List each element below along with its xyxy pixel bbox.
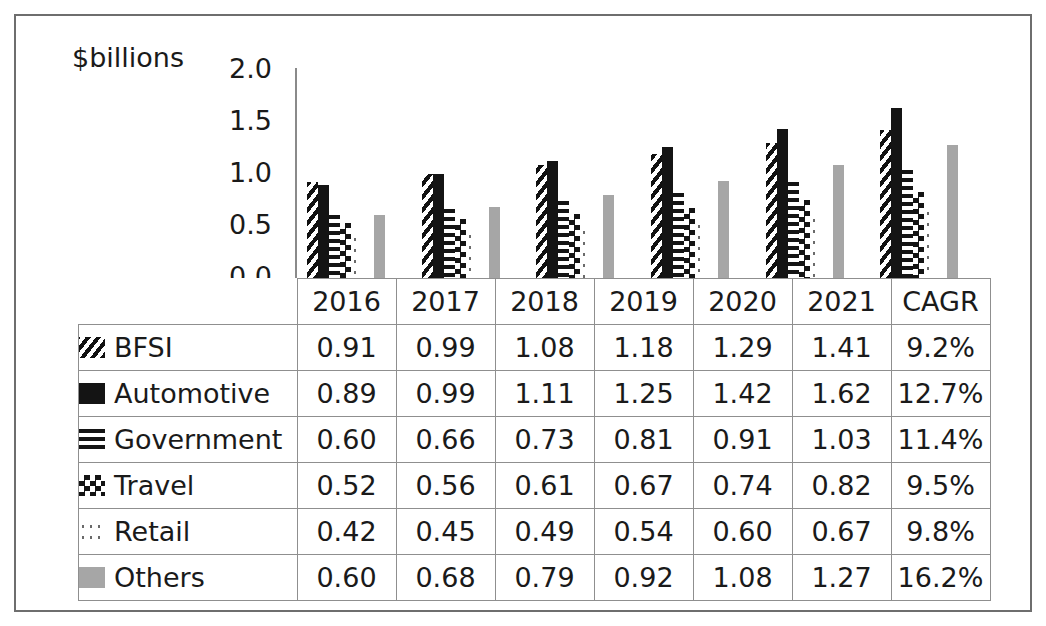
- cell-value: 1.41: [792, 325, 891, 371]
- bar-others-2018: [603, 195, 614, 278]
- y-axis-tick-label: 0.5: [204, 211, 272, 238]
- table-row: Travel0.520.560.610.670.740.829.5%: [79, 463, 991, 509]
- data-table: 2016 2017 2018 2019 2020 2021 CAGR BFSI0…: [78, 278, 991, 601]
- legend-cell-inner: Others: [79, 564, 297, 591]
- legend-cell-inner: Retail: [79, 518, 297, 545]
- y-axis-unit-label: $billions: [72, 44, 184, 71]
- cell-value: 0.79: [495, 555, 594, 601]
- bar-automotive-2021: [891, 108, 902, 278]
- bar-retail-2021: [924, 208, 935, 278]
- bar-others-2017: [489, 207, 500, 278]
- column-header-2021: 2021: [792, 279, 891, 325]
- cell-value: 0.74: [693, 463, 792, 509]
- cell-value: 1.03: [792, 417, 891, 463]
- series-label: Retail: [114, 518, 190, 545]
- cell-value: 1.29: [693, 325, 792, 371]
- bar-government-2019: [673, 193, 684, 278]
- bar-retail-2017: [466, 231, 477, 278]
- cell-cagr: 9.8%: [891, 509, 990, 555]
- column-header-2017: 2017: [396, 279, 495, 325]
- checkerboard-swatch-icon: [79, 475, 105, 496]
- cell-value: 0.89: [297, 371, 396, 417]
- bar-bfsi-2016: [307, 182, 318, 278]
- series-label: Travel: [114, 472, 194, 499]
- cell-value: 0.60: [693, 509, 792, 555]
- solid-black-swatch-icon: [79, 383, 105, 404]
- cell-cagr: 16.2%: [891, 555, 990, 601]
- cell-value: 1.18: [594, 325, 693, 371]
- series-label: Others: [114, 564, 205, 591]
- bar-travel-2018: [569, 214, 580, 278]
- bar-automotive-2020: [777, 129, 788, 278]
- cell-value: 0.99: [396, 325, 495, 371]
- bar-others-2021: [947, 145, 958, 278]
- sparse-dots-swatch-icon: [79, 521, 105, 542]
- cell-value: 0.49: [495, 509, 594, 555]
- cell-cagr: 9.2%: [891, 325, 990, 371]
- cell-value: 0.82: [792, 463, 891, 509]
- cell-value: 0.61: [495, 463, 594, 509]
- cell-value: 0.54: [594, 509, 693, 555]
- bar-travel-2021: [913, 192, 924, 278]
- cell-value: 0.60: [297, 417, 396, 463]
- cell-value: 1.27: [792, 555, 891, 601]
- cell-value: 0.45: [396, 509, 495, 555]
- cell-value: 1.42: [693, 371, 792, 417]
- cell-value: 0.92: [594, 555, 693, 601]
- column-header-2018: 2018: [495, 279, 594, 325]
- bar-others-2019: [718, 181, 729, 278]
- series-label: BFSI: [114, 334, 173, 361]
- bar-retail-2020: [810, 215, 821, 278]
- legend-cell-inner: Government: [79, 426, 297, 453]
- bar-others-2016: [374, 215, 385, 278]
- bar-group: [870, 68, 985, 278]
- table-row: Others0.600.680.790.921.081.2716.2%: [79, 555, 991, 601]
- cell-value: 1.08: [495, 325, 594, 371]
- cell-value: 0.42: [297, 509, 396, 555]
- table-body: BFSI0.910.991.081.181.291.419.2%Automoti…: [79, 325, 991, 601]
- table-header-row: 2016 2017 2018 2019 2020 2021 CAGR: [79, 279, 991, 325]
- bar-retail-2019: [695, 221, 706, 278]
- diagonal-stripe-swatch-icon: [79, 337, 105, 358]
- y-axis-tick-label: 2.0: [204, 55, 272, 82]
- legend-cell-government: Government: [79, 417, 298, 463]
- legend-cell-automotive: Automotive: [79, 371, 298, 417]
- horizontal-lines-swatch-icon: [79, 429, 105, 450]
- cell-value: 0.66: [396, 417, 495, 463]
- table-row: Government0.600.660.730.810.911.0311.4%: [79, 417, 991, 463]
- bar-group: [756, 68, 871, 278]
- cell-cagr: 11.4%: [891, 417, 990, 463]
- chart-page: $billions 2.0 1.5 1.0 0.5 0.0 2016 2017 …: [0, 0, 1046, 626]
- bar-automotive-2016: [318, 185, 329, 278]
- legend-cell-travel: Travel: [79, 463, 298, 509]
- bar-group: [526, 68, 641, 278]
- bar-bfsi-2019: [651, 154, 662, 278]
- cell-value: 0.81: [594, 417, 693, 463]
- bar-automotive-2018: [547, 161, 558, 278]
- table-row: BFSI0.910.991.081.181.291.419.2%: [79, 325, 991, 371]
- column-header-2020: 2020: [693, 279, 792, 325]
- cell-value: 0.52: [297, 463, 396, 509]
- bar-retail-2016: [351, 234, 362, 278]
- legend-cell-retail: Retail: [79, 509, 298, 555]
- bar-government-2020: [788, 182, 799, 278]
- plot-area: [297, 68, 985, 278]
- cell-value: 0.60: [297, 555, 396, 601]
- cell-value: 0.68: [396, 555, 495, 601]
- cell-value: 0.67: [792, 509, 891, 555]
- bar-others-2020: [833, 165, 844, 278]
- cell-value: 1.08: [693, 555, 792, 601]
- table-row: Automotive0.890.991.111.251.421.6212.7%: [79, 371, 991, 417]
- cell-cagr: 9.5%: [891, 463, 990, 509]
- bar-group: [412, 68, 527, 278]
- table-row: Retail0.420.450.490.540.600.679.8%: [79, 509, 991, 555]
- data-table-block: 2016 2017 2018 2019 2020 2021 CAGR BFSI0…: [78, 278, 986, 601]
- cell-value: 0.73: [495, 417, 594, 463]
- y-axis-tick-label: 1.0: [204, 159, 272, 186]
- bar-bfsi-2018: [536, 165, 547, 278]
- bar-travel-2016: [340, 223, 351, 278]
- legend-cell-bfsi: BFSI: [79, 325, 298, 371]
- cell-value: 1.62: [792, 371, 891, 417]
- bar-automotive-2017: [433, 174, 444, 278]
- cell-value: 0.67: [594, 463, 693, 509]
